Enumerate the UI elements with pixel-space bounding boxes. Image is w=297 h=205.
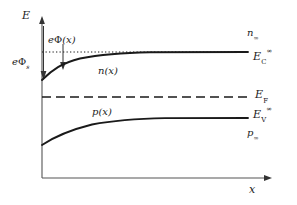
valence-band-superscript: ∞ (266, 105, 272, 113)
electron-band-curve (42, 52, 248, 80)
hole-band-curve (42, 118, 248, 145)
e-phi-x-arg: (x) (62, 34, 75, 45)
e-phi-s-phi: Φ (18, 56, 26, 67)
conduction-band-base: E (253, 50, 261, 63)
electron-bulk-base: n (247, 27, 253, 38)
electron-bulk-subscript: ∞ (254, 34, 259, 41)
conduction-band-label: EC∞ (253, 50, 272, 65)
hole-bulk-base: p (247, 127, 253, 138)
hole-bulk-label: p∞ (247, 128, 259, 140)
electron-curve-label: n(x) (98, 66, 118, 76)
electron-bulk-label: n∞ (247, 28, 259, 40)
x-axis-arrowhead (264, 175, 272, 181)
fermi-level-label: EF (255, 89, 268, 103)
e-phi-s-subscript: s (26, 63, 29, 70)
conduction-band-subscript: C (261, 58, 266, 66)
y-axis-label: E (22, 10, 30, 21)
e-phi-s-label: eΦs (12, 57, 29, 69)
fermi-level-subscript: F (263, 97, 268, 105)
hole-curve-label: p(x) (92, 107, 112, 117)
y-axis-arrowhead (39, 16, 45, 24)
x-axis-label: x (249, 184, 255, 195)
valence-band-base: E (253, 108, 261, 121)
hole-bulk-subscript: ∞ (254, 134, 259, 141)
valence-band-subscript: V (261, 116, 266, 124)
conduction-band-superscript: ∞ (267, 47, 273, 55)
valence-band-label: EV∞ (253, 108, 272, 123)
e-phi-x-phi: Φ (54, 34, 62, 45)
band-diagram-figure: E x eΦ(x) eΦs n(x) p(x) n∞ EC∞ EF EV∞ p∞ (0, 0, 297, 205)
e-phi-x-label: eΦ(x) (48, 35, 76, 45)
fermi-level-base: E (255, 88, 263, 101)
x-axis (42, 175, 272, 181)
